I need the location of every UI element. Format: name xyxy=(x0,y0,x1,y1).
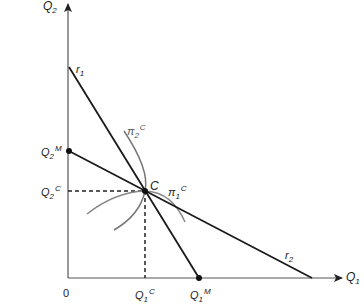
y-axis-label: Q2 xyxy=(43,0,57,15)
pi2-label: π2C xyxy=(127,124,146,140)
point-q1m xyxy=(196,275,202,281)
pi1-label: π1C xyxy=(168,185,187,201)
q1m-label: Q1M xyxy=(190,288,211,304)
x-axis-label: Q1 xyxy=(346,271,360,286)
isoprofit-curve-pi2 xyxy=(114,131,146,230)
point-q2m xyxy=(66,148,72,154)
r1-label: r1 xyxy=(76,64,84,78)
reaction-line-r1 xyxy=(69,67,199,278)
q2c-label: Q2C xyxy=(41,185,61,201)
point-c-label: C xyxy=(150,180,159,192)
q1c-label: Q1C xyxy=(135,288,155,304)
reaction-line-r2 xyxy=(69,151,312,278)
r2-label: r2 xyxy=(285,250,293,264)
q2m-label: Q2M xyxy=(41,145,62,161)
point-c xyxy=(142,188,148,194)
origin-label: 0 xyxy=(63,288,69,299)
